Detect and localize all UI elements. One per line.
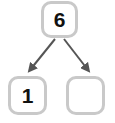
edge-root-to-left — [30, 39, 55, 70]
tree-node-left-child-label: 1 — [22, 85, 34, 106]
tree-node-left-child[interactable]: 1 — [8, 76, 47, 115]
edge-root-to-right — [64, 39, 88, 70]
tree-node-root[interactable]: 6 — [41, 1, 78, 38]
tree-node-right-child[interactable] — [66, 76, 105, 115]
tree-diagram: 6 1 — [0, 0, 115, 123]
tree-node-root-label: 6 — [54, 9, 66, 30]
